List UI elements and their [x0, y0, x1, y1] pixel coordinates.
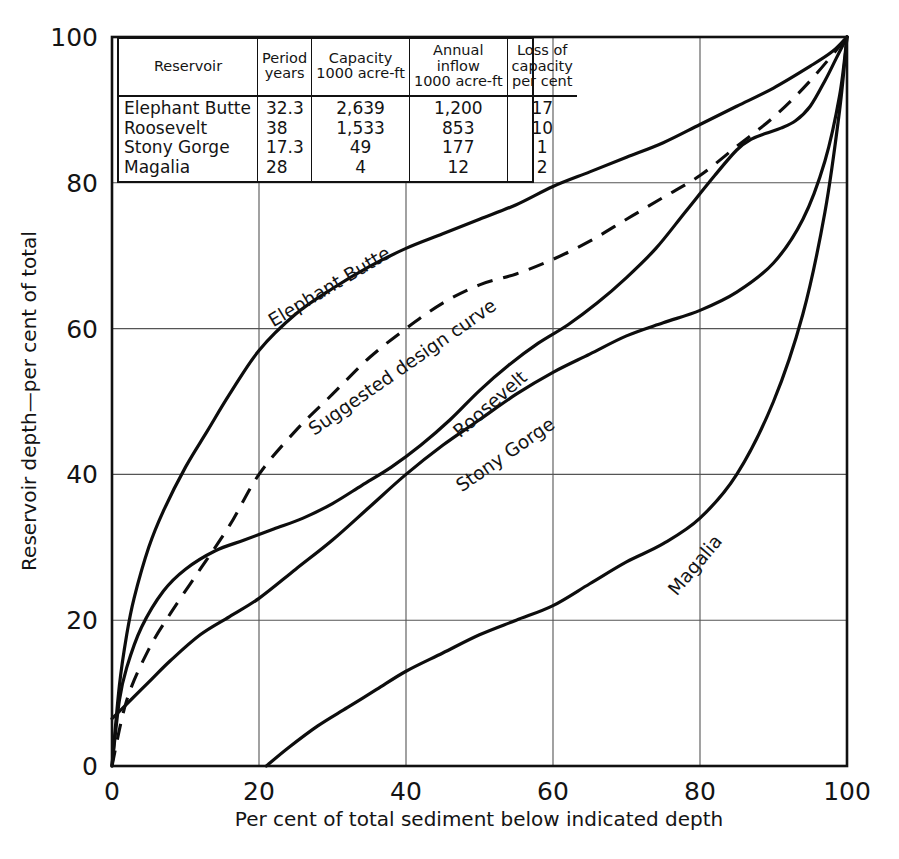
- y-axis-title: Reservoir depth—per cent of total: [17, 231, 41, 571]
- col-header-inflow-line3: 1000 acre-ft: [414, 74, 503, 90]
- x-axis-title: Per cent of total sediment below indicat…: [235, 807, 723, 831]
- cell-reservoir: Elephant Butte: [119, 96, 257, 119]
- y-tick-label-0: 0: [82, 752, 98, 781]
- cell-loss: 17: [507, 96, 577, 119]
- cell-inflow: 177: [409, 138, 507, 158]
- summary-table: Reservoir Period years Capacity 1000 acr…: [119, 39, 577, 181]
- col-header-period: Period years: [257, 39, 311, 96]
- col-header-inflow-line1: Annual: [414, 43, 503, 59]
- cell-inflow: 12: [409, 158, 507, 181]
- cell-period: 28: [257, 158, 311, 181]
- table-header-row: Reservoir Period years Capacity 1000 acr…: [119, 39, 577, 96]
- col-header-capacity: Capacity 1000 acre-ft: [312, 39, 410, 96]
- x-tick-label-80: 80: [684, 777, 716, 806]
- cell-capacity: 4: [312, 158, 410, 181]
- cell-period: 17.3: [257, 138, 311, 158]
- table-body: Elephant Butte32.32,6391,20017Roosevelt3…: [119, 96, 577, 181]
- cell-capacity: 1,533: [312, 119, 410, 139]
- cell-reservoir: Magalia: [119, 158, 257, 181]
- table-row: Roosevelt381,53385310: [119, 119, 577, 139]
- col-header-loss-line3: per cent: [512, 74, 573, 90]
- y-tick-label-40: 40: [66, 460, 98, 489]
- col-header-reservoir-line1: Reservoir: [123, 59, 253, 75]
- cell-period: 38: [257, 119, 311, 139]
- curve-label-roosevelt: Roosevelt: [449, 366, 531, 441]
- x-tick-label-20: 20: [243, 777, 275, 806]
- y-tick-label-100: 100: [50, 23, 98, 52]
- y-tick-label-80: 80: [66, 169, 98, 198]
- y-tick-label-60: 60: [66, 315, 98, 344]
- curve-label-magalia: Magalia: [664, 531, 726, 600]
- cell-reservoir: Roosevelt: [119, 119, 257, 139]
- curve-label-elephant-butte: Elephant Butte: [264, 242, 393, 331]
- x-tick-label-100: 100: [823, 777, 871, 806]
- col-header-period-line2: years: [262, 66, 307, 82]
- table-head: Reservoir Period years Capacity 1000 acr…: [119, 39, 577, 96]
- col-header-loss-of-capacity: Loss of capacity per cent: [507, 39, 577, 96]
- x-tick-label-40: 40: [390, 777, 422, 806]
- col-header-inflow-line2: inflow: [414, 59, 503, 75]
- cell-capacity: 2,639: [312, 96, 410, 119]
- col-header-reservoir: Reservoir: [119, 39, 257, 96]
- x-tick-labels: 020406080100: [104, 777, 871, 806]
- x-tick-label-60: 60: [537, 777, 569, 806]
- cell-reservoir: Stony Gorge: [119, 138, 257, 158]
- x-tick-label-0: 0: [104, 777, 120, 806]
- reservoir-summary-table: Reservoir Period years Capacity 1000 acr…: [117, 37, 534, 183]
- col-header-loss-line2: capacity: [512, 59, 573, 75]
- col-header-period-line1: Period: [262, 51, 307, 67]
- y-tick-label-20: 20: [66, 606, 98, 635]
- cell-loss: 2: [507, 158, 577, 181]
- col-header-capacity-line1: Capacity: [316, 51, 405, 67]
- cell-loss: 1: [507, 138, 577, 158]
- table-row: Elephant Butte32.32,6391,20017: [119, 96, 577, 119]
- cell-capacity: 49: [312, 138, 410, 158]
- cell-inflow: 1,200: [409, 96, 507, 119]
- table-row: Stony Gorge17.3491771: [119, 138, 577, 158]
- col-header-annual-inflow: Annual inflow 1000 acre-ft: [409, 39, 507, 96]
- y-tick-labels: 020406080100: [50, 23, 98, 781]
- cell-period: 32.3: [257, 96, 311, 119]
- col-header-capacity-line2: 1000 acre-ft: [316, 66, 405, 82]
- sediment-distribution-figure: 020406080100 020406080100 Elephant Butte…: [0, 0, 899, 859]
- col-header-loss-line1: Loss of: [512, 43, 573, 59]
- cell-inflow: 853: [409, 119, 507, 139]
- table-row: Magalia284122: [119, 158, 577, 181]
- cell-loss: 10: [507, 119, 577, 139]
